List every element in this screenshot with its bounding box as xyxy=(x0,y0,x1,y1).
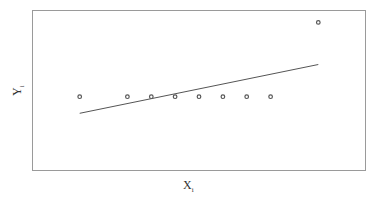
data-point xyxy=(150,95,154,99)
scatter-chart: Xi Yi xyxy=(0,0,381,198)
data-points xyxy=(78,21,320,99)
data-point xyxy=(78,95,82,99)
data-point xyxy=(269,95,273,99)
data-point xyxy=(317,21,321,25)
y-axis-label: Yi xyxy=(10,85,26,96)
data-point xyxy=(197,95,201,99)
plot-frame xyxy=(33,11,366,171)
data-point xyxy=(245,95,249,99)
regression-line xyxy=(80,65,319,114)
data-point xyxy=(221,95,225,99)
x-axis-label: Xi xyxy=(183,178,194,194)
data-point xyxy=(126,95,130,99)
data-point xyxy=(173,95,177,99)
